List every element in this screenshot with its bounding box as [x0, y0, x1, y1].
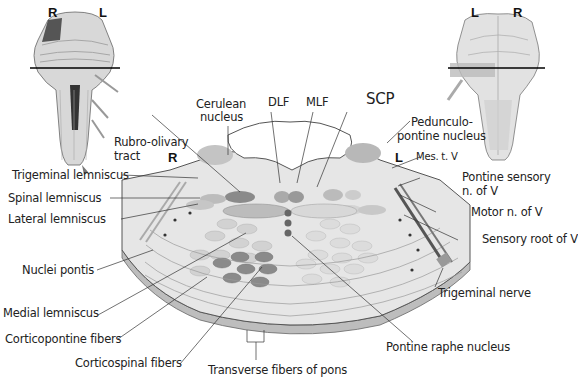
- label-sensory-root-v: Sensory root of V: [482, 233, 578, 246]
- label-spinal-lemniscus: Spinal lemniscus: [8, 192, 101, 205]
- label-medial-lemniscus: Medial lemniscus: [3, 307, 99, 320]
- thumbnail2-right-side-marker: R: [513, 5, 522, 20]
- label-cerulean-nucleus-line2: nucleus: [200, 111, 243, 124]
- label-pontine-sensory-line1: Pontine sensory: [462, 171, 551, 184]
- label-pedunculopontine-line2: pontine nucleus: [397, 130, 486, 143]
- label-corticospinal-fibers: Corticospinal fibers: [75, 357, 182, 370]
- label-nuclei-pontis: Nuclei pontis: [22, 264, 94, 277]
- thumbnail2-left-side-marker: L: [471, 5, 479, 20]
- label-rubro-olivary-line2: tract: [114, 150, 140, 163]
- label-scp: SCP: [366, 93, 394, 106]
- left-brainstem-thumbnail: [30, 12, 120, 175]
- thumbnail-right-side-marker: L: [99, 5, 107, 20]
- thumbnail-left-side-marker: R: [48, 5, 57, 20]
- label-pontine-raphe-nucleus: Pontine raphe nucleus: [386, 341, 510, 354]
- pons-cross-section-diagram: R L L R R L Cerulean nucleus DLF MLF SCP…: [0, 0, 578, 387]
- label-lateral-lemniscus: Lateral lemniscus: [8, 213, 106, 226]
- label-rubro-olivary-line1: Rubro-olivary: [114, 136, 188, 149]
- label-mes-t-v: Mes. t. V: [416, 150, 458, 163]
- label-mlf: MLF: [306, 96, 328, 109]
- label-pontine-sensory-line2: n. of V: [462, 185, 498, 198]
- label-trigeminal-nerve: Trigeminal nerve: [438, 287, 531, 300]
- label-pedunculopontine-line1: Pedunculo-: [411, 116, 473, 129]
- label-corticopontine-fibers: Corticopontine fibers: [5, 333, 121, 346]
- label-motor-n-v: Motor n. of V: [471, 206, 543, 219]
- label-trigeminal-lemniscus: Trigeminal lemniscus: [12, 169, 129, 182]
- section-left-side-marker: L: [395, 150, 403, 165]
- label-transverse-fibers: Transverse fibers of pons: [208, 364, 347, 377]
- section-right-side-marker: R: [168, 150, 177, 165]
- label-dlf: DLF: [268, 96, 289, 109]
